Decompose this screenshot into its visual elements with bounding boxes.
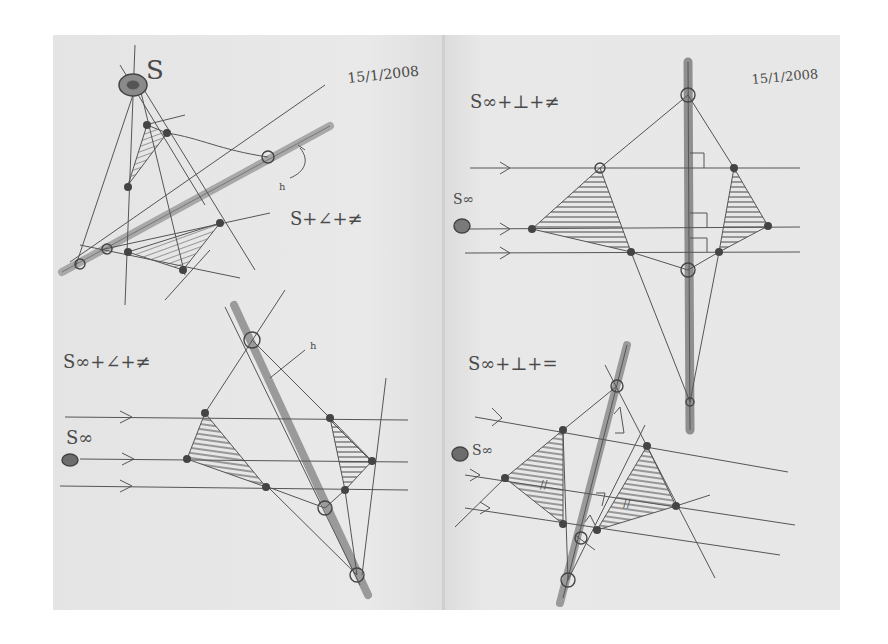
condition-label: S∞+∠+≠ [63,351,151,372]
condition-label: S+∠+≠ [290,208,363,229]
source-icon [62,454,78,466]
sketch-bottom-right: // // [452,345,795,603]
source-label: S∞ [472,442,493,458]
source-label: S∞ [66,427,93,448]
condition-label: S∞+⊥+= [468,353,558,374]
source-label: S∞ [453,191,474,207]
sketch-bottom-left [60,290,408,595]
sketch-top-right [454,62,800,430]
line-label: h [310,340,317,351]
svg-text://: // [623,497,631,510]
condition-label: S∞+⊥+≠ [470,91,560,112]
source-icon [454,219,470,233]
source-icon [452,447,468,461]
line-label: h [279,181,286,192]
date-label: 15/1/2008 [347,63,420,86]
sketch-canvas: S 15/1/2008 S+∠+≠ h [0,0,888,644]
date-label: 15/1/2008 [751,66,819,87]
sketch-top-left [62,45,330,305]
source-label: S [146,55,164,85]
svg-text://: // [540,478,548,491]
